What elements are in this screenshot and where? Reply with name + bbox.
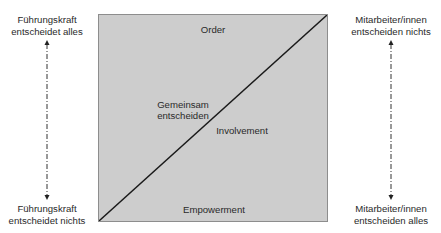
- decision-box: Order Gemeinsam entscheiden Involvement …: [98, 14, 328, 222]
- right-top-line2: entscheiden nichts: [341, 26, 441, 38]
- diagonal-line: [99, 15, 327, 221]
- label-empowerment: Empowerment: [169, 204, 259, 215]
- left-bottom-line2: entscheidet nichts: [0, 215, 97, 227]
- right-top-line1: Mitarbeiter/innen: [341, 14, 441, 26]
- left-bottom-line1: Führungskraft: [0, 203, 97, 215]
- right-double-arrow-icon: [386, 40, 396, 200]
- left-double-arrow-icon: [42, 40, 52, 200]
- left-top-line1: Führungskraft: [0, 14, 97, 26]
- label-order: Order: [183, 24, 243, 35]
- left-top-label: Führungskraft entscheidet alles: [0, 14, 97, 38]
- left-top-line2: entscheidet alles: [0, 26, 97, 38]
- right-top-label: Mitarbeiter/innen entscheiden nichts: [341, 14, 441, 38]
- left-bottom-label: Führungskraft entscheidet nichts: [0, 203, 97, 227]
- label-gemeinsam-entscheiden: Gemeinsam entscheiden: [153, 99, 213, 121]
- right-bottom-line1: Mitarbeiter/innen: [341, 203, 441, 215]
- right-bottom-line2: entscheiden alles: [341, 215, 441, 227]
- label-involvement: Involvement: [207, 125, 277, 136]
- right-bottom-label: Mitarbeiter/innen entscheiden alles: [341, 203, 441, 227]
